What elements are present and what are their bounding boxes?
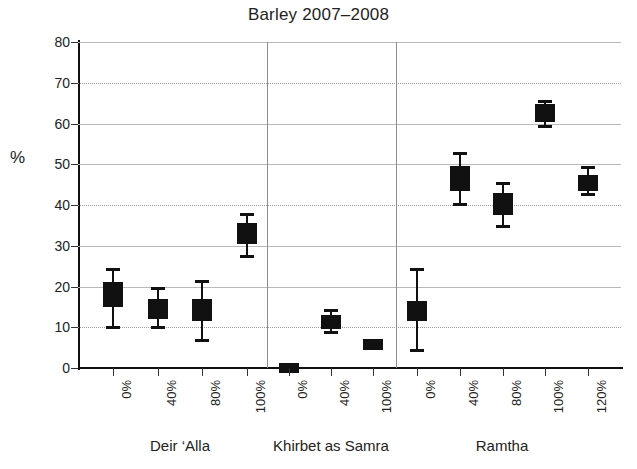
x-axis-tick <box>373 368 374 376</box>
error-bar-cap <box>151 287 165 290</box>
error-bar-cap <box>496 182 510 185</box>
data-point-box <box>578 175 598 191</box>
y-axis-tick <box>71 246 78 247</box>
error-bar-cap <box>453 203 467 206</box>
y-axis-tick-labels: 01020304050607080 <box>40 42 70 368</box>
x-axis-tick-label: 0% <box>295 380 310 399</box>
x-axis-tick <box>503 368 504 376</box>
group-label: Deir ‘Alla <box>150 437 210 454</box>
data-point-box <box>237 223 257 243</box>
data-point-box <box>148 299 168 319</box>
x-axis-tick <box>417 368 418 376</box>
gridline <box>78 164 621 165</box>
x-axis-tick-label: 100% <box>253 380 268 413</box>
gridline <box>78 83 621 84</box>
error-bar-cap <box>240 255 254 258</box>
data-point-box <box>363 339 383 350</box>
x-axis-tick <box>331 368 332 376</box>
group-label: Ramtha <box>476 437 529 454</box>
data-point-box <box>535 104 555 122</box>
error-bar-cap <box>410 349 424 352</box>
error-bar-cap <box>195 339 209 342</box>
x-axis-tick-label: 80% <box>509 380 524 406</box>
y-axis-tick-label: 30 <box>40 238 70 254</box>
error-bar-cap <box>581 193 595 196</box>
y-axis-tick-label: 20 <box>40 279 70 295</box>
gridline <box>78 246 621 247</box>
error-bar-cap <box>538 125 552 128</box>
y-axis-tick <box>71 164 78 165</box>
gridline <box>78 124 621 125</box>
x-axis-tick-label: 40% <box>337 380 352 406</box>
y-axis-tick <box>71 83 78 84</box>
error-bar-cap <box>324 331 338 334</box>
x-axis-tick-label: 40% <box>164 380 179 406</box>
data-point-box <box>192 299 212 321</box>
y-axis-tick <box>71 42 78 43</box>
data-point-box <box>407 301 427 321</box>
x-axis-tick <box>113 368 114 376</box>
x-axis-tick <box>158 368 159 376</box>
x-axis-tick <box>588 368 589 376</box>
x-axis-tick <box>247 368 248 376</box>
group-separator <box>267 42 268 368</box>
x-axis-tick-label: 100% <box>551 380 566 413</box>
x-axis-tick-label: 100% <box>379 380 394 413</box>
error-bar-cap <box>538 100 552 103</box>
y-axis-tick-label: 60 <box>40 116 70 132</box>
chart-root: Barley 2007–2008 % 01020304050607080 0%4… <box>0 0 637 469</box>
x-axis-tick-label: 120% <box>594 380 609 413</box>
data-point-box <box>493 193 513 215</box>
x-axis-tick <box>202 368 203 376</box>
group-label: Khirbet as Samra <box>273 437 389 454</box>
x-axis-tick <box>545 368 546 376</box>
y-axis-tick <box>71 205 78 206</box>
y-axis-tick-label: 40 <box>40 197 70 213</box>
group-separator <box>396 42 397 368</box>
error-bar-cap <box>453 152 467 155</box>
error-bar-cap <box>151 326 165 329</box>
plot-area <box>78 42 621 368</box>
y-axis-tick-label: 0 <box>40 360 70 376</box>
error-bar-cap <box>496 225 510 228</box>
y-axis-label: % <box>10 148 25 168</box>
error-bar-cap <box>581 166 595 169</box>
x-axis-tick-label: 80% <box>208 380 223 406</box>
y-axis-tick <box>71 287 78 288</box>
error-bar-cap <box>410 268 424 271</box>
x-axis-tick-label: 0% <box>423 380 438 399</box>
error-bar-cap <box>195 280 209 283</box>
y-axis-tick <box>71 327 78 328</box>
y-axis-tick-label: 50 <box>40 156 70 172</box>
error-bar-cap <box>106 268 120 271</box>
y-axis-tick-label: 10 <box>40 319 70 335</box>
error-bar-cap <box>240 213 254 216</box>
x-axis-tick <box>460 368 461 376</box>
error-bar-cap <box>324 309 338 312</box>
gridline <box>78 42 621 43</box>
x-axis-tick <box>289 368 290 376</box>
gridline <box>78 205 621 206</box>
data-point-box <box>321 315 341 329</box>
y-axis-tick-label: 70 <box>40 75 70 91</box>
x-axis-tick-label: 0% <box>119 380 134 399</box>
error-bar-cap <box>106 326 120 329</box>
data-point-box <box>450 166 470 190</box>
x-axis-tick-label: 40% <box>466 380 481 406</box>
data-point-box <box>103 282 123 306</box>
chart-title: Barley 2007–2008 <box>0 5 637 25</box>
y-axis-tick <box>71 368 78 369</box>
y-axis-tick <box>71 124 78 125</box>
y-axis-tick-label: 80 <box>40 34 70 50</box>
